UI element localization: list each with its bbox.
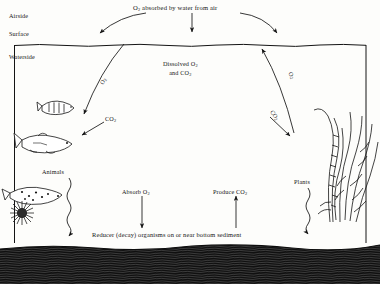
diagram-title: O2 absorbed by water from air (133, 4, 217, 12)
label-absorb-o2: Absorb O2 (122, 188, 150, 196)
fish-flat (2, 187, 62, 204)
label-animals: Animals (42, 168, 64, 176)
aquatic-plants (314, 109, 378, 222)
label-co2-animals: CO2 (105, 115, 116, 123)
bottom-sediment (0, 245, 380, 284)
aquatic-gas-cycle-diagram: O2 absorbed by water from air Airside Su… (0, 0, 380, 284)
diagram-drawing-layer (0, 0, 380, 284)
water-surface-line (15, 44, 367, 46)
fish-large (14, 133, 72, 153)
label-reducer-organisms: Reducer (decay) organisms on or near bot… (92, 231, 241, 239)
arrow-co2-from-animals (82, 122, 104, 135)
label-produce-co2: Produce CO2 (213, 188, 247, 196)
zone-label-airside: Airside (9, 12, 28, 20)
zone-label-waterside: Waterside (9, 53, 35, 61)
arrow-animals-to-sediment (67, 178, 71, 236)
label-dissolved-gases: Dissolved O2and CO2 (163, 60, 198, 77)
arrow-o2-into-water-right (240, 13, 277, 33)
arrow-plants-to-sediment (306, 188, 310, 234)
arrow-o2-into-water-left (100, 13, 146, 33)
fish-striped (37, 101, 74, 114)
zone-label-surface: Surface (9, 30, 29, 38)
arrow-o2-from-plants-to-surface (262, 49, 294, 133)
label-plants: Plants (294, 178, 310, 186)
sea-urchin (10, 201, 34, 225)
